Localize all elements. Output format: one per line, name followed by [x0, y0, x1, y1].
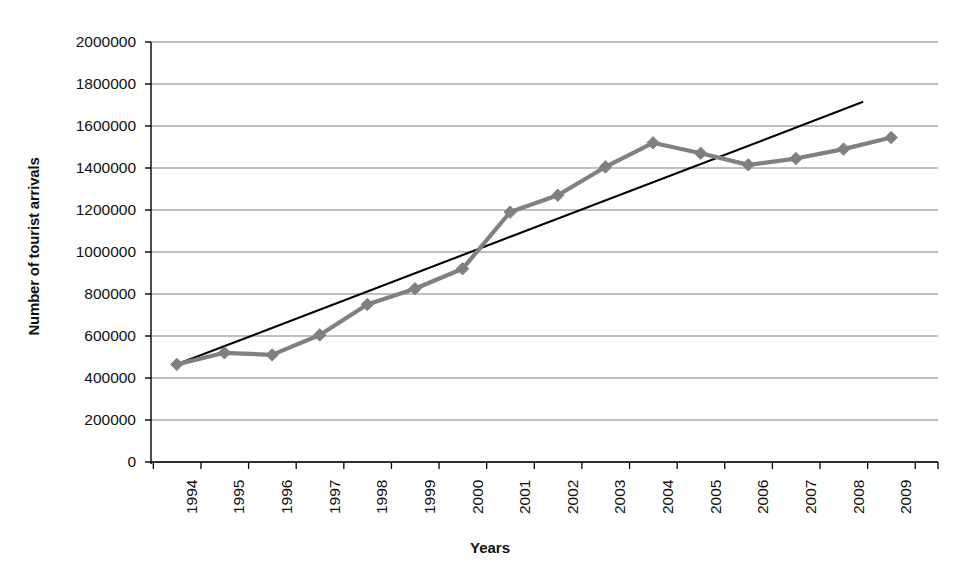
data-point-marker[interactable] — [694, 147, 706, 159]
data-point-marker[interactable] — [790, 152, 802, 164]
data-point-marker[interactable] — [837, 143, 849, 155]
data-point-marker[interactable] — [266, 349, 278, 361]
x-tick-label: 1995 — [231, 480, 247, 514]
trendline — [177, 102, 863, 365]
data-point-marker[interactable] — [742, 159, 754, 171]
x-tick-label: 1998 — [374, 480, 390, 514]
x-tick-label: 2007 — [803, 480, 819, 514]
data-point-marker[interactable] — [171, 358, 183, 370]
data-point-marker[interactable] — [409, 283, 421, 295]
x-tick-label: 2004 — [660, 480, 676, 514]
data-series-line — [177, 138, 891, 365]
x-tick-label: 1994 — [184, 480, 200, 514]
x-tick-label: 2001 — [517, 480, 533, 514]
x-axis-title: Years — [430, 539, 550, 556]
x-tick-label: 2002 — [565, 480, 581, 514]
x-tick-label: 2000 — [470, 480, 486, 514]
data-point-marker[interactable] — [885, 131, 897, 143]
x-tick-label: 2008 — [851, 480, 867, 514]
x-tick-label: 2005 — [708, 480, 724, 514]
x-tick-label: 2006 — [755, 480, 771, 514]
x-tick-label: 1996 — [279, 480, 295, 514]
x-tick-label: 2009 — [898, 480, 914, 514]
x-tick-label: 1997 — [327, 480, 343, 514]
x-tick-label: 1999 — [422, 480, 438, 514]
tourist-arrivals-line-chart: Number of tourist arrivals 2000000 18000… — [0, 0, 963, 572]
x-tick-label: 2003 — [612, 480, 628, 514]
